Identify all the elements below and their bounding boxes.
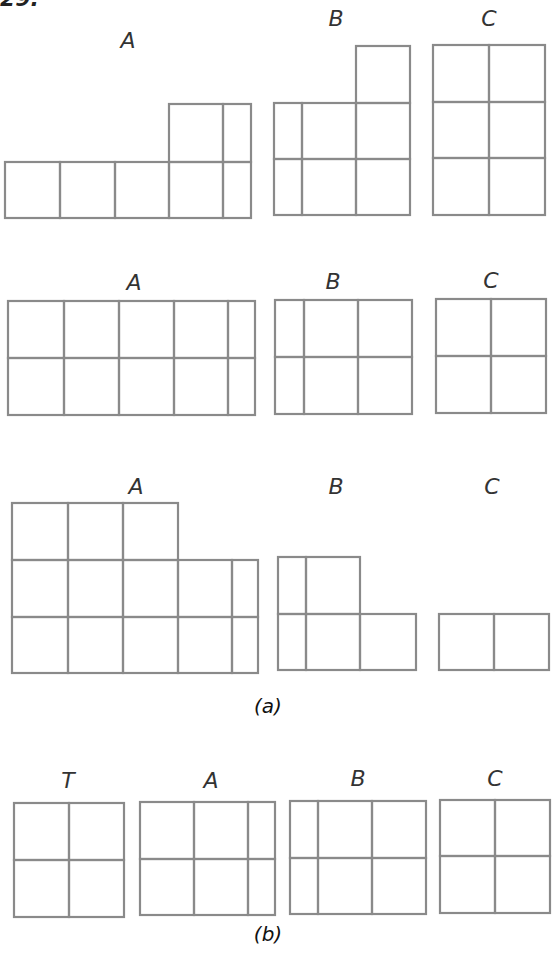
grid-cell <box>12 617 68 673</box>
grid-cell <box>178 617 232 673</box>
figure-a-row3-C <box>439 614 549 670</box>
grid-cell <box>436 299 491 356</box>
grid-cell <box>60 162 115 218</box>
grid-cell <box>223 162 251 218</box>
grid-cell <box>275 357 304 414</box>
figure-b-B <box>290 801 426 914</box>
grid-cell <box>174 358 228 415</box>
grid-cell <box>248 859 275 915</box>
grid-cell <box>12 560 68 617</box>
grid-cell <box>223 104 251 162</box>
grid-cell <box>495 856 550 913</box>
grid-cell <box>440 856 495 913</box>
grid-cell <box>372 858 426 914</box>
figure-a-row2-C <box>436 299 546 413</box>
grid-cell <box>494 614 549 670</box>
grid-cell <box>304 300 358 357</box>
grid-cell <box>64 301 119 358</box>
figure-a-row2-B <box>275 300 412 414</box>
figure-a-row2-A <box>8 301 255 415</box>
grid-cell <box>306 557 360 614</box>
grid-cell <box>69 803 124 860</box>
figure-a-row1-B <box>274 46 410 215</box>
grid-cell <box>228 358 255 415</box>
grid-cell <box>489 45 545 102</box>
grid-cell <box>495 800 550 856</box>
grid-cell <box>5 162 60 218</box>
grid-cell <box>194 802 248 859</box>
grid-cell <box>119 358 174 415</box>
grid-cell <box>123 560 178 617</box>
figure-a-row1-C <box>433 45 545 215</box>
grid-cell <box>248 802 275 859</box>
grid-cell <box>318 858 372 914</box>
grid-cell <box>433 102 489 158</box>
grid-cell <box>119 301 174 358</box>
grid-cell <box>304 357 358 414</box>
grid-cell <box>64 358 119 415</box>
grid-cell <box>491 299 546 356</box>
grid-cell <box>69 860 124 917</box>
grid-cell <box>358 300 412 357</box>
grid-cell <box>356 46 410 103</box>
grid-cell <box>123 503 178 560</box>
figure-b-A <box>140 802 275 915</box>
grid-cell <box>433 45 489 102</box>
grid-cell <box>8 358 64 415</box>
grid-cell <box>8 301 64 358</box>
grid-cell <box>436 356 491 413</box>
grid-cell <box>491 356 546 413</box>
figure-a-row3-B <box>278 557 416 670</box>
grid-cell <box>306 614 360 670</box>
grid-cell <box>356 103 410 159</box>
grid-cell <box>140 802 194 859</box>
grid-cell <box>68 503 123 560</box>
grid-cell <box>140 859 194 915</box>
grid-cell <box>290 858 318 914</box>
grid-cell <box>489 102 545 158</box>
grid-cell <box>489 158 545 215</box>
grid-cell <box>115 162 169 218</box>
grid-cell <box>275 300 304 357</box>
figure-a-row3-A <box>12 503 258 673</box>
grid-cell <box>274 159 302 215</box>
grid-cell <box>174 301 228 358</box>
grid-cell <box>372 801 426 858</box>
grid-cell <box>228 301 255 358</box>
grid-cell <box>356 159 410 215</box>
grid-cell <box>169 162 223 218</box>
grid-cell <box>169 104 223 162</box>
grid-cell <box>278 557 306 614</box>
grid-cell <box>178 560 232 617</box>
grid-cell <box>14 803 69 860</box>
grid-cell <box>433 158 489 215</box>
grid-cell <box>68 617 123 673</box>
grid-cell <box>123 617 178 673</box>
grid-cell <box>360 614 416 670</box>
grid-cell <box>232 617 258 673</box>
figure-b-T <box>14 803 124 917</box>
grid-cell <box>14 860 69 917</box>
grid-cell <box>358 357 412 414</box>
grid-cell <box>194 859 248 915</box>
grid-cell <box>274 103 302 159</box>
grid-cell <box>232 560 258 617</box>
grid-cell <box>290 801 318 858</box>
grid-cell <box>302 103 356 159</box>
figure-a-row1-A <box>5 104 251 218</box>
grid-cell <box>440 800 495 856</box>
grid-cell <box>318 801 372 858</box>
grid-cell <box>278 614 306 670</box>
grid-cell <box>68 560 123 617</box>
grid-cell <box>302 159 356 215</box>
grid-figures <box>0 0 554 953</box>
figure-b-C <box>440 800 550 913</box>
grid-cell <box>12 503 68 560</box>
grid-cell <box>439 614 494 670</box>
